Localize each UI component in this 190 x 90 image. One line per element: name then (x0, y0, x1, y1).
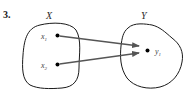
element-x2-dot (56, 63, 60, 67)
element-x2: x2 (40, 61, 60, 71)
element-y1: y1 (146, 47, 162, 57)
set-y-label: Y (141, 10, 148, 21)
problem-number: 3. (3, 9, 11, 20)
set-x-boundary (23, 23, 80, 88)
arrow-x1-to-y1 (60, 36, 140, 46)
element-y1-dot (146, 49, 150, 53)
function-mapping-diagram: 3. X x1 x2 Y y1 (0, 0, 190, 90)
set-x-label: X (45, 10, 53, 21)
element-x2-label: x2 (40, 61, 48, 71)
set-y-boundary (121, 24, 183, 88)
element-x1-label: x1 (40, 32, 47, 42)
element-x1: x1 (40, 32, 60, 42)
arrow-x2-to-y1 (60, 53, 140, 64)
element-y1-label: y1 (154, 47, 161, 57)
element-x1-dot (56, 34, 60, 38)
